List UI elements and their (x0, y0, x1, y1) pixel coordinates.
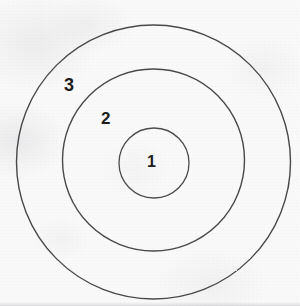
ring-label-inner: 1 (147, 154, 156, 170)
ring-label-middle: 2 (101, 110, 110, 127)
ring-label-outer: 3 (64, 76, 74, 94)
scanned-page: 3 2 1 (0, 0, 300, 306)
